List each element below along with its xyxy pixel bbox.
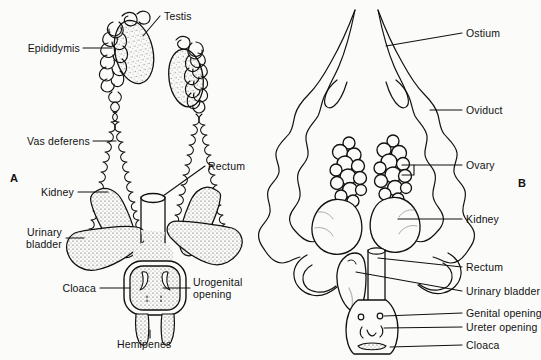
- leader-urinary-bladder-b: [356, 272, 462, 291]
- label-hemipenes: Hemipenes: [117, 338, 171, 350]
- label-ureter-opening: Ureter opening: [466, 321, 538, 333]
- label-rectum-a: Rectum: [208, 160, 245, 172]
- label-urinary-bladder-b: Urinary bladder: [466, 285, 540, 297]
- anatomy-drawing: [0, 0, 541, 360]
- label-kidney-a: Kidney: [30, 186, 74, 198]
- panel-letter-b: B: [518, 177, 526, 189]
- label-cloaca-b: Cloaca: [466, 339, 500, 351]
- panel-letter-a: A: [10, 172, 18, 184]
- genital-opening-left: [358, 314, 364, 320]
- label-oviduct: Oviduct: [466, 104, 503, 116]
- rectum-tube-b: [368, 248, 385, 308]
- cloaca-b: [346, 300, 398, 354]
- label-genital-opening: Genital opening: [466, 307, 541, 319]
- ovary-left: [330, 137, 367, 207]
- label-urogenital-opening-line1: Urogenital: [193, 276, 242, 288]
- label-cloaca-a: Cloaca: [54, 282, 96, 294]
- label-ovary: Ovary: [466, 159, 495, 171]
- label-epididymis: Epididymis: [18, 42, 80, 54]
- ovary-right: [374, 135, 412, 205]
- label-urinary-bladder-a-line1: Urinary: [0, 226, 62, 238]
- kidney-right-b: [370, 197, 420, 252]
- label-urogenital-opening: Urogenital opening: [193, 276, 242, 300]
- label-ostium: Ostium: [466, 27, 500, 39]
- label-urinary-bladder-a-line2: bladder: [0, 238, 62, 250]
- oviduct-lower-loops: [294, 253, 461, 296]
- kidney-left-b: [312, 199, 362, 254]
- label-kidney-b: Kidney: [466, 213, 499, 225]
- leader-ostium: [386, 33, 462, 46]
- genital-opening-right: [377, 313, 383, 319]
- label-testis: Testis: [164, 10, 192, 22]
- anatomical-figure: A B Testis Epididymis Vas deferens Rectu…: [0, 0, 541, 360]
- label-urinary-bladder-a: Urinary bladder: [0, 226, 62, 250]
- testis-left: [109, 17, 159, 88]
- label-rectum-b: Rectum: [466, 261, 503, 273]
- leader-testis: [143, 16, 160, 36]
- label-vas-deferens: Vas deferens: [16, 135, 90, 147]
- panel-b-female-drawing: [259, 10, 475, 354]
- urinary-bladder-right: [167, 221, 242, 265]
- label-urogenital-opening-line2: opening: [193, 288, 242, 300]
- leader-cloaca-b: [390, 345, 462, 347]
